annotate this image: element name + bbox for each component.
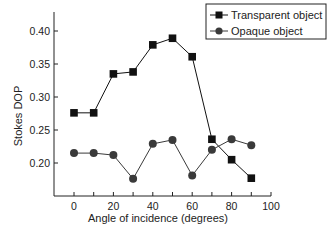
square-marker-icon bbox=[248, 174, 256, 182]
circle-marker-icon bbox=[208, 146, 216, 154]
series-layer bbox=[70, 34, 255, 182]
square-marker-icon bbox=[70, 109, 78, 117]
circle-marker-icon bbox=[109, 151, 117, 159]
square-marker-icon bbox=[169, 34, 177, 42]
line-chart: 0.200.250.300.350.40020406080100 Transpa… bbox=[0, 0, 331, 238]
y-tick-label: 0.25 bbox=[30, 124, 51, 136]
legend-label: Transparent object bbox=[231, 9, 322, 21]
y-axis-label: Stokes DOP bbox=[12, 86, 24, 147]
square-marker-icon bbox=[228, 156, 236, 164]
series-opaque-object bbox=[70, 135, 255, 183]
circle-marker-icon bbox=[215, 27, 222, 34]
square-marker-icon bbox=[188, 53, 196, 61]
circle-marker-icon bbox=[247, 141, 255, 149]
y-tick-label: 0.30 bbox=[30, 91, 51, 103]
x-tick-label: 20 bbox=[108, 200, 120, 212]
x-tick-label: 80 bbox=[226, 200, 238, 212]
x-tick-label: 60 bbox=[186, 200, 198, 212]
circle-marker-icon bbox=[228, 135, 236, 143]
circle-marker-icon bbox=[90, 149, 98, 157]
circle-marker-icon bbox=[149, 140, 157, 148]
square-marker-icon bbox=[149, 41, 157, 49]
legend: Transparent object Opaque object bbox=[206, 4, 326, 39]
y-tick-label: 0.20 bbox=[30, 157, 51, 169]
x-tick-label: 100 bbox=[262, 200, 280, 212]
x-axis-label: Angle of incidence (degrees) bbox=[88, 212, 228, 224]
square-marker-icon bbox=[216, 12, 223, 19]
circle-marker-icon bbox=[129, 175, 137, 183]
legend-label: Opaque object bbox=[231, 25, 303, 37]
circle-marker-icon bbox=[70, 149, 78, 157]
circle-marker-icon bbox=[188, 172, 196, 180]
square-marker-icon bbox=[90, 109, 98, 117]
series-transparent-object bbox=[70, 34, 255, 182]
y-tick-label: 0.40 bbox=[30, 25, 51, 37]
y-tick-label: 0.35 bbox=[30, 58, 51, 70]
circle-marker-icon bbox=[169, 136, 177, 144]
square-marker-icon bbox=[208, 135, 216, 143]
square-marker-icon bbox=[129, 68, 137, 76]
series-line bbox=[74, 38, 251, 178]
x-tick-label: 0 bbox=[71, 200, 77, 212]
square-marker-icon bbox=[110, 70, 118, 78]
x-tick-label: 40 bbox=[147, 200, 159, 212]
series-line bbox=[74, 139, 251, 179]
